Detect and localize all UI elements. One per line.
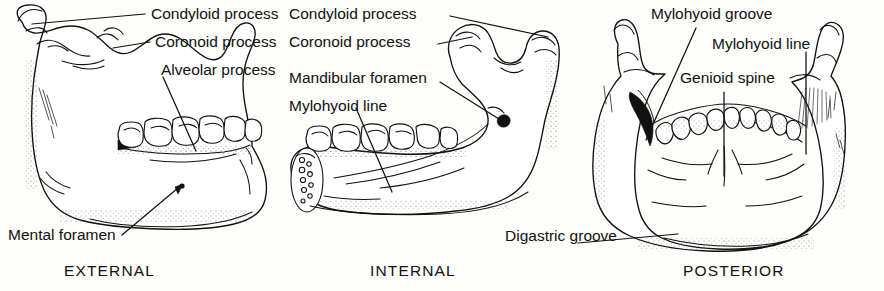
mandibular-foramen-marker bbox=[497, 115, 510, 127]
symphysis-detail bbox=[291, 148, 323, 212]
caption-internal: INTERNAL bbox=[370, 262, 456, 280]
label-coronoid-process-internal: Coronoid process bbox=[289, 34, 410, 50]
label-digastric-groove-posterior: Digastric groove bbox=[505, 228, 617, 244]
leader-condyloid-process-external bbox=[32, 14, 145, 24]
label-mylohyoid-line-internal: Mylohyoid line bbox=[289, 98, 387, 114]
label-mylohyoid-groove-posterior: Mylohyoid groove bbox=[651, 6, 772, 22]
label-mylohyoid-line-posterior: Mylohyoid line bbox=[712, 36, 810, 52]
caption-posterior: POSTERIOR bbox=[683, 262, 785, 280]
panel-external: Condyloid process Coronoid process Alveo… bbox=[0, 0, 295, 291]
label-mental-foramen-external: Mental foramen bbox=[8, 227, 116, 243]
label-genioid-spine-posterior: Genioid spine bbox=[680, 70, 775, 86]
figure-mandible-views: Condyloid process Coronoid process Alveo… bbox=[0, 0, 884, 291]
caption-external: EXTERNAL bbox=[64, 262, 155, 280]
label-condyloid-process-external: Condyloid process bbox=[151, 6, 279, 22]
label-alveolar-process-external: Alveolar process bbox=[161, 62, 276, 78]
panel-posterior: Mylohyoid groove Mylohyoid line Genioid … bbox=[568, 0, 884, 291]
label-mandibular-foramen-internal: Mandibular foramen bbox=[289, 70, 427, 86]
panel-internal: Condyloid process Coronoid process Mandi… bbox=[280, 0, 585, 291]
label-condyloid-process-internal: Condyloid process bbox=[289, 6, 417, 22]
mandible-outline-internal bbox=[291, 25, 559, 215]
label-coronoid-process-external: Coronoid process bbox=[155, 34, 276, 50]
teeth-row-internal bbox=[306, 124, 458, 151]
mandible-outline-posterior bbox=[593, 20, 846, 251]
